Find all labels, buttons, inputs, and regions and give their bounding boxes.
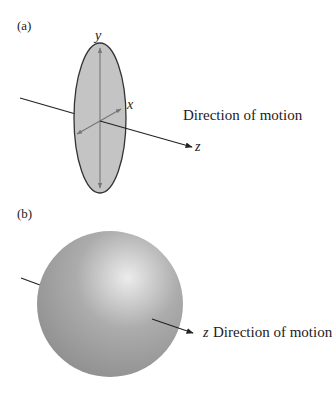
direction-of-motion-label: Direction of motion <box>213 325 332 340</box>
sphere <box>37 231 183 377</box>
z-axis-label: z <box>203 326 208 340</box>
z-axis-back-segment <box>21 278 40 285</box>
x-axis-label: x <box>127 98 133 112</box>
z-axis-label: z <box>195 140 200 154</box>
panel-b-label: (b) <box>17 207 32 220</box>
relativistic-contraction-diagram: (a) y x z Direction of motion (b) z Dire… <box>0 0 333 396</box>
panel-a-graphics <box>20 43 192 193</box>
panel-b-graphics <box>21 231 193 377</box>
y-axis-label: y <box>95 29 101 43</box>
panel-a-label: (a) <box>17 19 31 32</box>
direction-of-motion-label: Direction of motion <box>183 108 302 123</box>
